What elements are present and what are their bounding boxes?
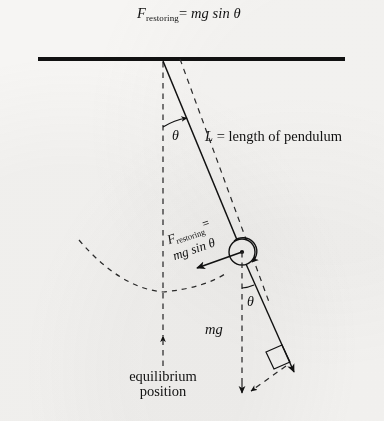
rod-parallel-dashed-line [180, 59, 269, 302]
equilibrium-caption: equilibrium position [73, 369, 253, 399]
length-description: = length of pendulum [217, 128, 342, 144]
component-closing-dashed-line [251, 366, 286, 391]
theta-arc-bob [242, 285, 254, 288]
pendulum-figure: Frestoring= mg sin θ [0, 0, 384, 421]
pendulum-length-label: L = length of pendulum [205, 129, 342, 144]
theta-arc-pivot [163, 118, 187, 127]
theta-label-bob: θ [247, 295, 254, 310]
equilibrium-caption-line2: position [73, 384, 253, 399]
equilibrium-caption-line1: equilibrium [73, 369, 253, 384]
diagram-vector-layer [0, 0, 384, 421]
weight-label: mg [205, 322, 223, 337]
right-angle-marker [266, 345, 290, 369]
length-symbol: L [205, 128, 213, 144]
theta-label-pivot: θ [172, 129, 179, 144]
